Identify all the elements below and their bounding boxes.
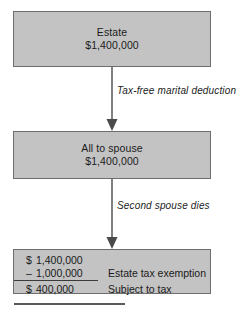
calc-amount-gross: $ 1,400,000	[14, 254, 98, 266]
node-estate-amount: $1,400,000	[14, 39, 210, 52]
edge-label-second-spouse-dies: Second spouse dies	[117, 200, 210, 211]
arrow-marital-deduction	[107, 67, 118, 131]
calc-sign-exemption: –	[26, 267, 36, 279]
calc-number-exemption: 1,000,000	[36, 267, 98, 279]
node-estate: Estate $1,400,000	[13, 11, 211, 67]
calc-row-exemption: – 1,000,000 Estate tax exemption	[14, 267, 210, 280]
node-estate-title: Estate	[14, 26, 210, 39]
node-all-to-spouse-title: All to spouse	[14, 142, 210, 155]
node-tax-calculation: $ 1,400,000 – 1,000,000 Estate tax exemp…	[13, 249, 211, 294]
calc-description-taxable: Subject to tax	[98, 283, 172, 295]
calc-row-gross: $ 1,400,000	[14, 254, 210, 267]
arrow-second-spouse-dies	[107, 179, 118, 249]
node-estate-text: Estate $1,400,000	[14, 26, 210, 53]
edge-label-marital-deduction: Tax-free marital deduction	[117, 85, 236, 96]
tax-calculation-table: $ 1,400,000 – 1,000,000 Estate tax exemp…	[14, 250, 210, 293]
node-all-to-spouse-amount: $1,400,000	[14, 155, 210, 168]
calc-number-gross: 1,400,000	[36, 254, 98, 266]
calc-number-taxable: 400,000	[36, 283, 98, 295]
node-all-to-spouse: All to spouse $1,400,000	[13, 131, 211, 179]
calc-row-taxable: $ 400,000 Subject to tax	[14, 283, 210, 296]
calc-sign-taxable: $	[26, 283, 36, 295]
footer-divider	[14, 303, 125, 305]
estate-tax-flow-diagram: Estate $1,400,000 Tax-free marital deduc…	[0, 0, 239, 313]
node-all-to-spouse-text: All to spouse $1,400,000	[14, 142, 210, 169]
calc-description-exemption: Estate tax exemption	[98, 267, 206, 279]
calc-amount-taxable: $ 400,000	[14, 283, 98, 295]
calc-sign-gross: $	[26, 254, 36, 266]
calc-amount-exemption: – 1,000,000	[14, 267, 98, 281]
